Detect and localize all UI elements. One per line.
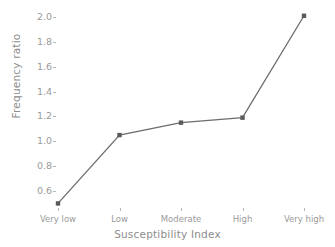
data-point <box>302 14 306 18</box>
x-axis-title: Susceptibility Index <box>0 228 335 240</box>
series-markers <box>56 14 306 206</box>
x-tick-mark <box>120 208 121 211</box>
x-tick-label: High <box>233 213 253 225</box>
x-tick-label: Low <box>111 213 128 225</box>
x-tick-label: Very high <box>284 213 324 225</box>
x-tick-mark <box>304 208 305 211</box>
x-tick-label: Very low <box>40 213 76 225</box>
x-tick-mark <box>181 208 182 211</box>
series-line <box>58 16 304 204</box>
data-point <box>56 201 60 205</box>
x-tick-label: Moderate <box>161 213 201 225</box>
line-chart: Frequency ratio 0.60.81.01.21.41.61.82.0… <box>0 0 335 247</box>
data-point <box>240 115 244 119</box>
data-point <box>179 120 183 124</box>
x-tick-mark <box>58 208 59 211</box>
data-point <box>117 133 121 137</box>
x-tick-mark <box>243 208 244 211</box>
plot-area <box>0 0 335 247</box>
